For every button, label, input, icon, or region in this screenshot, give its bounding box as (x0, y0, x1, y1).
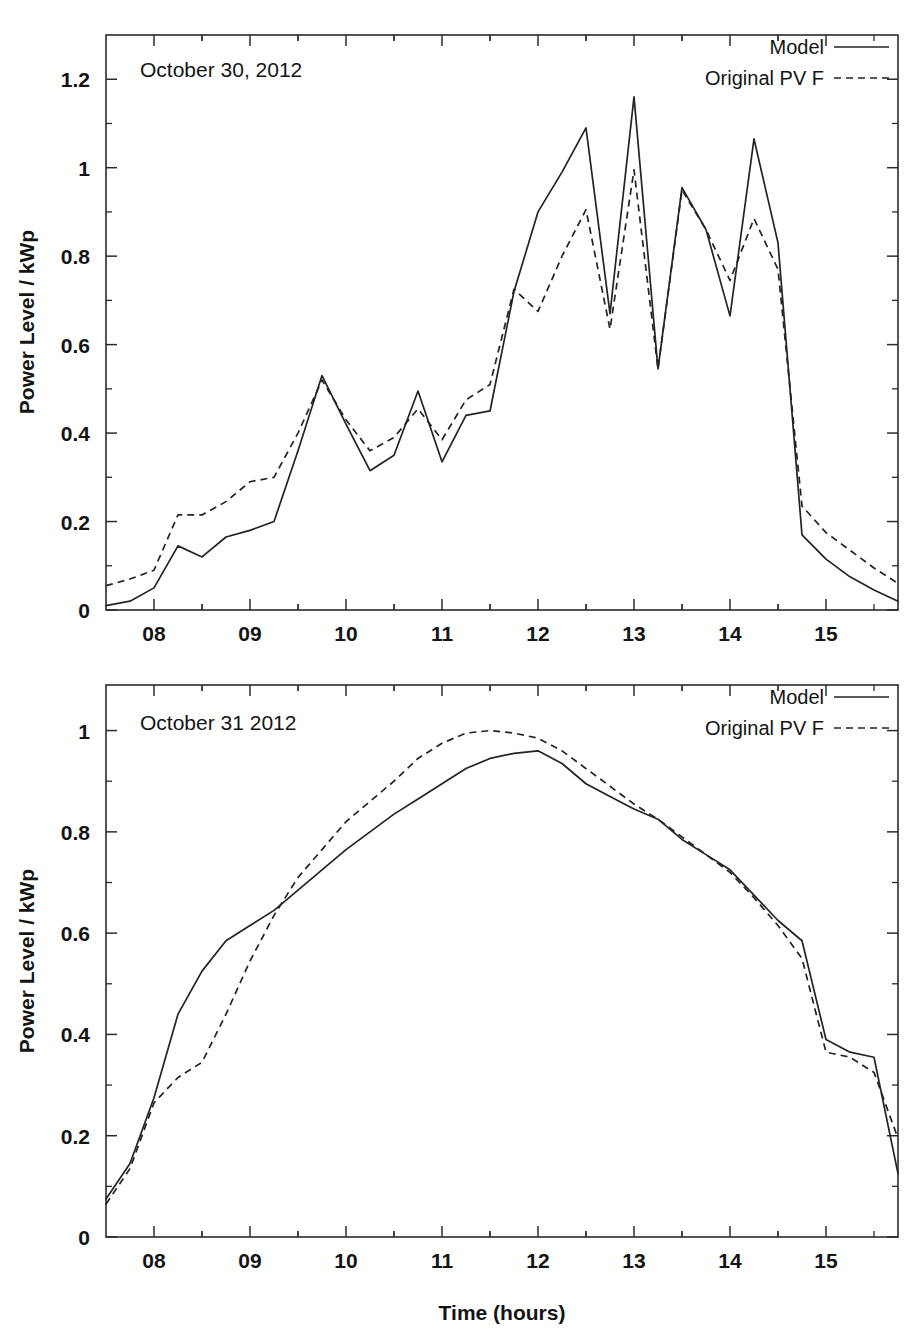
axis-ticks (106, 685, 898, 1237)
chart-svg-oct-30: 080910111213141500.20.40.60.811.2 Power … (0, 0, 923, 660)
y-axis-title: Power Level / kWp (15, 230, 38, 414)
x-axis-title: Time (hours) (439, 1301, 566, 1324)
legend-label-original-pv: Original PV F (705, 67, 824, 89)
y-tick-label: 1.2 (61, 68, 90, 91)
plot-frame (106, 685, 898, 1237)
chart-panel-oct-31: 080910111213141500.20.40.60.81 Power Lev… (0, 660, 923, 1340)
y-axis-title: Power Level / kWp (15, 869, 38, 1053)
x-tick-label: 13 (622, 622, 645, 645)
y-tick-label: 1 (78, 157, 90, 180)
y-tick-label: 0.6 (61, 922, 90, 945)
y-tick-label: 0.4 (61, 422, 91, 445)
x-tick-label: 15 (814, 622, 838, 645)
series-line-model (106, 751, 898, 1199)
y-tick-label: 0.4 (61, 1023, 91, 1046)
x-tick-label: 11 (431, 622, 454, 645)
x-tick-label: 12 (526, 1249, 549, 1272)
y-tick-label: 0.2 (61, 1125, 90, 1148)
x-tick-label: 13 (622, 1249, 645, 1272)
x-tick-label: 08 (142, 622, 166, 645)
chart-legend: Model Original PV F (705, 686, 889, 739)
series-line-original-pv (106, 170, 898, 586)
axis-tick-labels: 080910111213141500.20.40.60.811.2 (61, 68, 838, 645)
legend-label-model: Model (770, 36, 824, 58)
y-tick-label: 0.8 (61, 821, 91, 844)
y-tick-label: 0 (78, 1226, 90, 1249)
figure-pv-power-comparison: 080910111213141500.20.40.60.811.2 Power … (0, 0, 923, 1340)
y-tick-label: 0.6 (61, 334, 90, 357)
y-tick-label: 0.2 (61, 511, 90, 534)
x-tick-label: 12 (526, 622, 549, 645)
x-tick-label: 14 (718, 622, 742, 645)
x-tick-label: 14 (718, 1249, 742, 1272)
x-tick-label: 10 (334, 622, 357, 645)
plot-frame (106, 35, 898, 610)
chart-panel-oct-30: 080910111213141500.20.40.60.811.2 Power … (0, 0, 923, 660)
x-tick-label: 09 (238, 622, 261, 645)
x-tick-label: 08 (142, 1249, 166, 1272)
chart-svg-oct-31: 080910111213141500.20.40.60.81 Power Lev… (0, 660, 923, 1340)
y-tick-label: 1 (78, 720, 90, 743)
chart-legend: Model Original PV F (705, 36, 889, 89)
y-tick-label: 0.8 (61, 245, 91, 268)
series-line-model (106, 97, 898, 606)
x-tick-label: 10 (334, 1249, 357, 1272)
chart-date-annotation: October 31 2012 (140, 711, 296, 734)
axis-ticks (106, 35, 898, 610)
legend-label-model: Model (770, 686, 824, 708)
axis-tick-labels: 080910111213141500.20.40.60.81 (61, 720, 838, 1272)
x-tick-label: 15 (814, 1249, 838, 1272)
y-tick-label: 0 (78, 599, 90, 622)
x-tick-label: 11 (431, 1249, 454, 1272)
legend-label-original-pv: Original PV F (705, 717, 824, 739)
x-tick-label: 09 (238, 1249, 261, 1272)
chart-date-annotation: October 30, 2012 (140, 58, 302, 81)
series-line-original-pv (106, 731, 898, 1205)
